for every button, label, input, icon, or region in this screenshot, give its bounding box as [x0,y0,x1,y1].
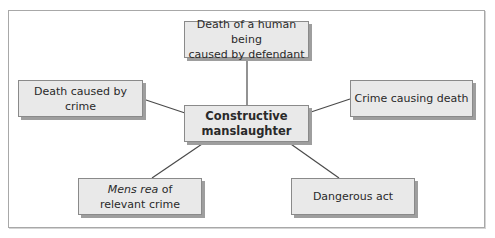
edge-center-left [143,99,185,113]
node-dangerous-act: Dangerous act [291,178,415,215]
node-text: Mens rea of relevant crime [100,182,180,212]
node-line-1: Crime causing death [354,91,468,106]
edge-center-bottom-right [288,142,339,178]
node-line-1: Constructive [201,109,291,124]
node-line-2: relevant crime [100,197,180,212]
node-line-2: caused by defendant [185,47,308,62]
node-line-1-rest: of [158,183,172,196]
node-text: Constructive manslaughter [201,109,291,139]
node-constructive-manslaughter: Constructive manslaughter [184,105,309,142]
node-death-of-human-being: Death of a human being caused by defenda… [184,21,309,58]
edge-center-bottom-left [152,142,205,178]
node-death-caused-by-crime: Death caused by crime [18,80,143,117]
node-mens-rea: Mens rea of relevant crime [78,178,202,215]
node-crime-causing-death: Crime causing death [350,80,473,117]
node-line-1-italic: Mens rea [108,183,159,196]
node-line-1: Dangerous act [313,189,393,204]
node-line-1: Death of a human being [185,17,308,47]
node-line-2: manslaughter [201,124,291,139]
node-line-1: Death caused by crime [19,84,142,114]
node-line-1: Mens rea of [100,182,180,197]
edge-center-right [308,99,350,113]
node-text: Death of a human being caused by defenda… [185,17,308,62]
